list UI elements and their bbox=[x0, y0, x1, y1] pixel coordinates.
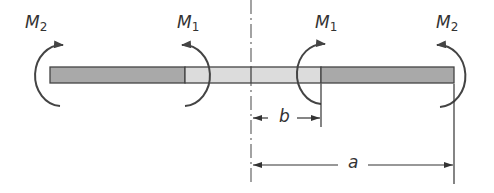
label-symbol: M bbox=[436, 12, 451, 32]
beam-inner bbox=[185, 67, 321, 83]
dimension-label-a: a bbox=[348, 154, 358, 171]
beam bbox=[50, 67, 454, 83]
label-symbol: M bbox=[25, 12, 40, 32]
label-subscript: 2 bbox=[40, 20, 48, 34]
label-m2-left: M2 bbox=[25, 14, 47, 33]
label-m1-left: M1 bbox=[177, 14, 199, 33]
beam-diagram bbox=[0, 0, 494, 193]
label-subscript: 2 bbox=[451, 20, 459, 34]
beam-outer-right bbox=[321, 67, 454, 83]
label-symbol: M bbox=[315, 12, 330, 32]
label-m1-right: M1 bbox=[315, 14, 337, 33]
label-subscript: 1 bbox=[330, 20, 338, 34]
label-m2-right: M2 bbox=[436, 14, 458, 33]
label-symbol: M bbox=[177, 12, 192, 32]
label-subscript: 1 bbox=[192, 20, 200, 34]
dimension-label-b: b bbox=[279, 108, 290, 125]
beam-outer-left bbox=[50, 67, 185, 83]
